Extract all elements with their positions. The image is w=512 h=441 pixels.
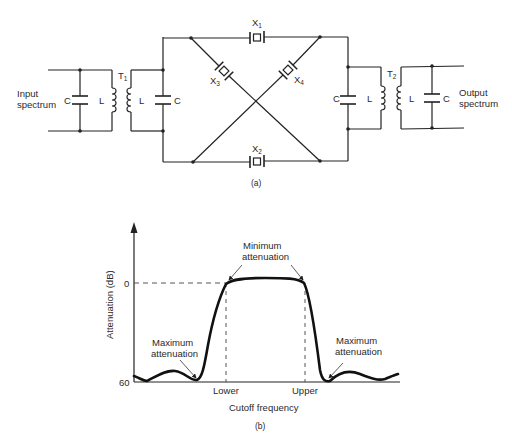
x1-label: X1 [252, 17, 262, 29]
input-cap-label: C [64, 95, 71, 106]
output-label-line1: Output [459, 87, 488, 98]
caption-a: (a) [251, 178, 262, 188]
annotation-max-left-line2: attenuation [151, 348, 198, 359]
figure-canvas: Input spectrum C L T1 L C X1 X2 X3 X4 C … [0, 0, 512, 441]
input-label-line1: Input [17, 88, 38, 99]
annotation-max-right-line1: Maximum [336, 335, 377, 346]
output-cap-label: C [443, 93, 450, 104]
input-tank-circuit [48, 68, 116, 133]
t2-cap-label: C [333, 93, 340, 104]
t2-label: T2 [387, 68, 397, 80]
x-axis-label: Cutoff frequency [229, 402, 299, 413]
crystal-x2 [250, 155, 264, 168]
output-inductor-label: L [409, 93, 414, 104]
x4-label: X4 [294, 74, 304, 86]
output-label-line2: spectrum [459, 98, 498, 109]
x-tick-upper: Upper [292, 385, 318, 396]
annotation-max-right-line2: attenuation [335, 346, 382, 357]
x-tick-lower: Lower [213, 385, 239, 396]
annotation-min-line1: Minimum [243, 240, 282, 251]
input-inductor-label: L [99, 95, 104, 106]
transformer-t1-secondary [127, 37, 171, 162]
y-tick-0: 0 [124, 278, 129, 289]
annotation-max-left-line1: Maximum [152, 337, 193, 348]
transformer-t2-primary [340, 37, 385, 161]
x2-label: X2 [252, 143, 262, 155]
attenuation-response-curve [134, 278, 398, 381]
min-atten-arrow-lower [229, 265, 242, 280]
y-axis-label: Attenuation (dB) [104, 270, 115, 339]
t1-cap-label: C [174, 95, 181, 106]
y-tick-60: 60 [119, 377, 130, 388]
annotation-min-line2: attenuation [242, 251, 289, 262]
y-axis-arrow-icon [131, 222, 138, 233]
output-tank-circuit [397, 64, 464, 130]
t2-primary-inductor-label: L [367, 93, 372, 104]
t1-label: T1 [118, 70, 128, 82]
crystal-x1 [250, 31, 264, 44]
x3-label: X3 [210, 75, 220, 87]
caption-b: (b) [255, 421, 266, 431]
input-label-line2: spectrum [17, 99, 56, 110]
t1-secondary-inductor-label: L [139, 95, 144, 106]
attenuation-chart: 0 60 Lower Upper Cutoff frequency Attenu… [104, 222, 400, 431]
